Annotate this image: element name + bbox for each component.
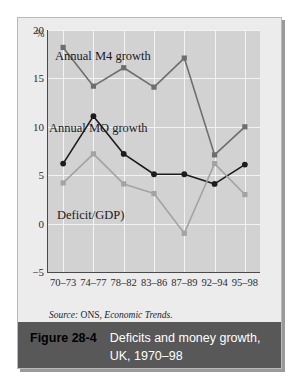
figure-number: Figure 28-4 xyxy=(30,329,97,347)
data-point-marker xyxy=(212,161,217,166)
caption-bar: Figure 28-4 Deficits and money growth, U… xyxy=(18,322,281,368)
data-point-marker xyxy=(242,162,248,168)
source-note: Source: ONS, Economic Trends. xyxy=(49,310,173,320)
y-axis-tick-label: −5 xyxy=(32,266,44,278)
x-axis-tick-label: 92–94 xyxy=(201,277,227,288)
data-point-marker xyxy=(151,85,156,90)
data-point-marker xyxy=(182,231,187,236)
figure-caption: Deficits and money growth, UK, 1970–98 xyxy=(110,329,261,365)
caption-line-2: UK, 1970–98 xyxy=(110,349,183,363)
data-point-marker xyxy=(212,181,218,187)
data-point-marker xyxy=(242,192,247,197)
x-axis-tick-label: 70–73 xyxy=(50,277,76,288)
data-point-marker xyxy=(60,161,66,167)
x-axis-tick-label: 74–77 xyxy=(80,277,106,288)
data-point-marker xyxy=(242,124,247,129)
figure-container: % 20151050−5 70–7374–7778–8283–8687–8992… xyxy=(17,17,282,369)
data-point-marker xyxy=(61,180,66,185)
data-point-marker xyxy=(91,113,97,119)
y-axis-tick-label: 15 xyxy=(33,72,44,84)
caption-line-1: Deficits and money growth, xyxy=(110,331,261,345)
data-point-marker xyxy=(121,151,127,157)
x-axis-tick-label: 87–89 xyxy=(171,277,197,288)
data-point-marker xyxy=(182,55,187,60)
annotation-m0-growth: Annual MO growth xyxy=(49,121,148,136)
data-point-marker xyxy=(91,151,96,156)
y-axis-tick-label: 10 xyxy=(33,121,44,133)
data-point-marker xyxy=(181,171,187,177)
annotation-deficit-gdp: Deficit/GDP) xyxy=(57,208,124,223)
plot-wrapper: 20151050−5 70–7374–7778–8283–8687–8992–9… xyxy=(48,30,260,272)
x-axis-line xyxy=(47,272,260,273)
annotation-m4-growth: Annual M4 growth xyxy=(55,49,151,64)
x-axis-tick-label: 95–98 xyxy=(232,277,258,288)
series-plot xyxy=(48,30,260,272)
data-point-marker xyxy=(151,171,157,177)
x-axis-tick-label: 78–82 xyxy=(111,277,137,288)
data-point-marker xyxy=(151,191,156,196)
x-axis-tick-label: 83–86 xyxy=(141,277,167,288)
y-axis-tick-label: 5 xyxy=(39,169,45,181)
y-axis-tick-label: 20 xyxy=(33,24,44,36)
data-point-marker xyxy=(121,65,126,70)
source-prefix: Source: xyxy=(49,310,78,320)
y-axis-tick-label: 0 xyxy=(39,218,45,230)
source-publication: Economic Trends. xyxy=(104,310,172,320)
source-body: ONS, xyxy=(81,310,102,320)
data-point-marker xyxy=(91,84,96,89)
data-point-marker xyxy=(121,181,126,186)
chart-area: % 20151050−5 70–7374–7778–8283–8687–8992… xyxy=(18,18,281,293)
data-point-marker xyxy=(212,152,217,157)
